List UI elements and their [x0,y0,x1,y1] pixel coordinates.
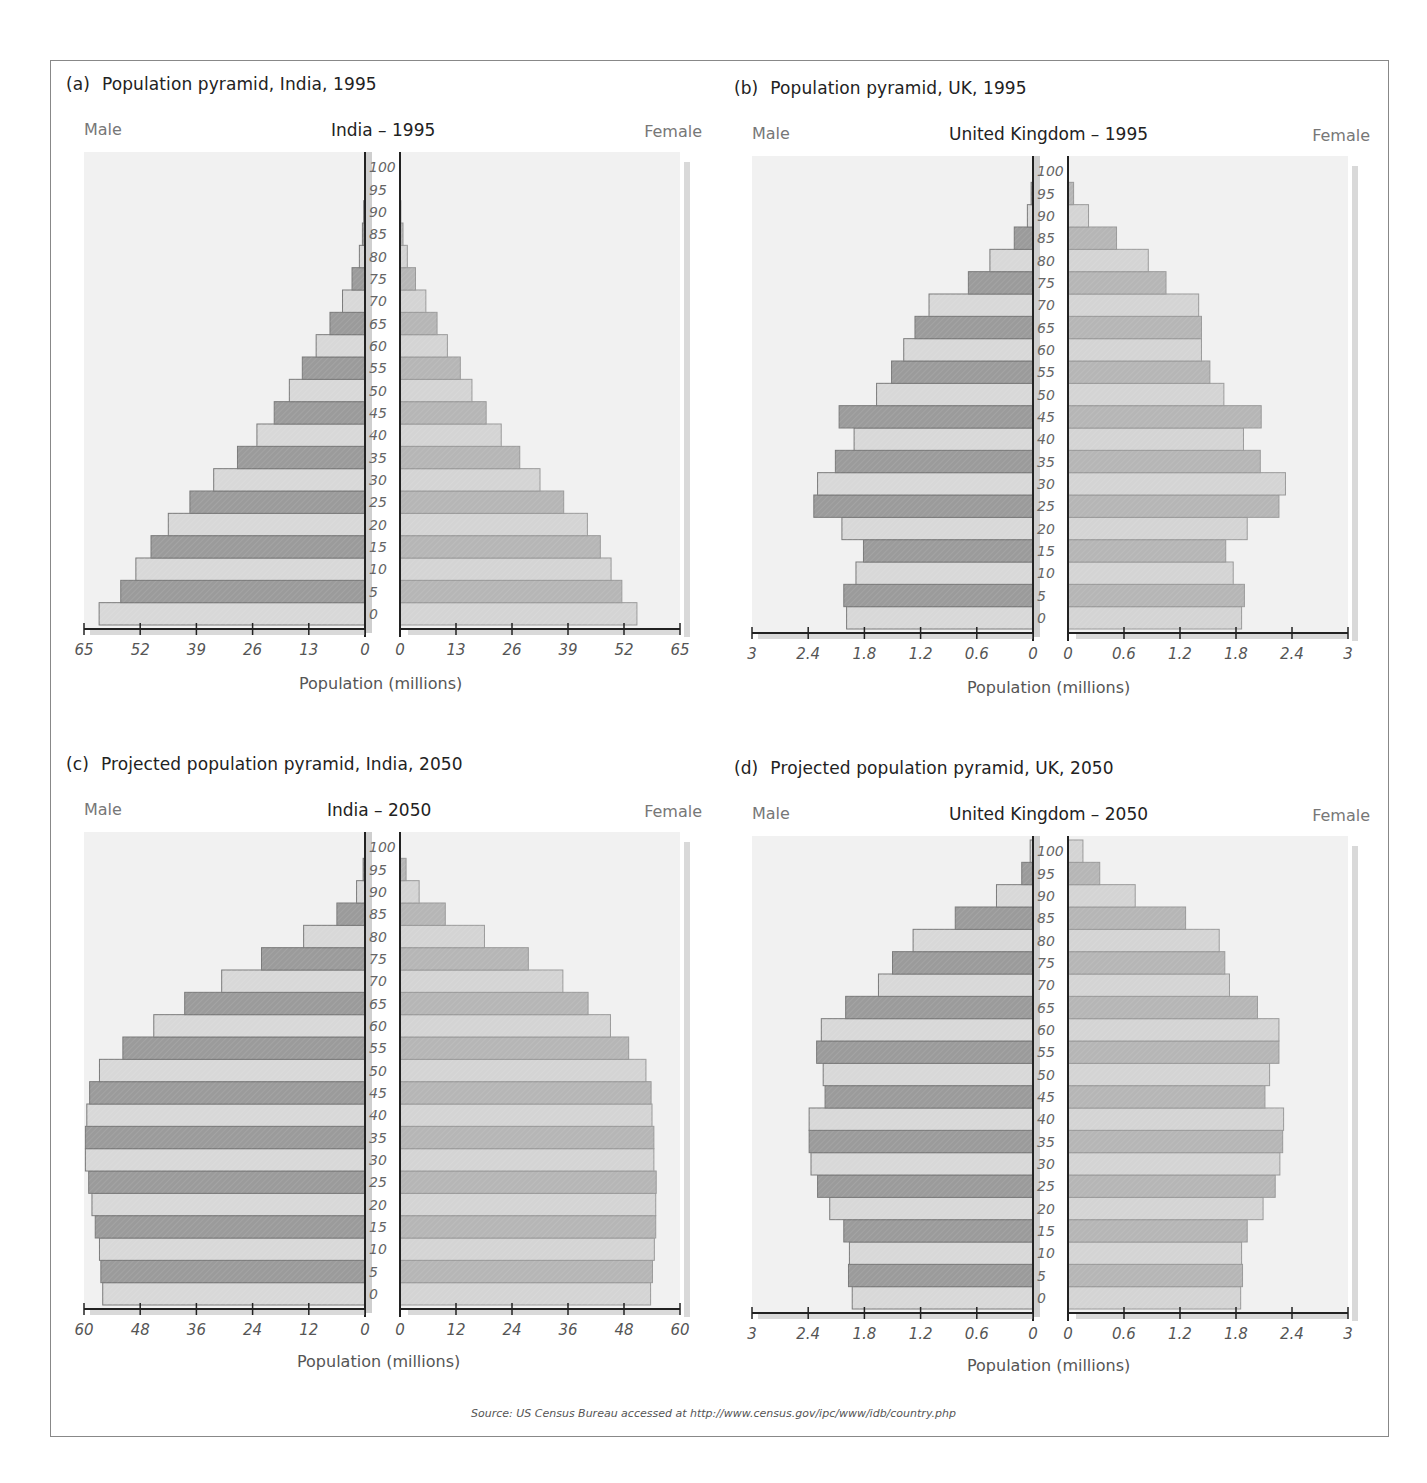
age-label: 35 [1037,1134,1055,1150]
age-label: 85 [369,906,387,922]
age-label: 15 [369,539,387,555]
age-label: 95 [369,862,387,878]
age-label: 85 [1037,230,1055,246]
age-label: 25 [1037,1178,1055,1194]
age-label: 40 [369,427,387,443]
male-tick-label: 12 [299,1321,318,1339]
age-label: 80 [1037,933,1055,949]
age-label: 25 [1037,498,1055,514]
age-label: 30 [369,472,387,488]
female-tick-label: 0.6 [1112,1325,1136,1343]
pyramid-chart: 0510152025303540455055606570758085909510… [718,68,1398,728]
male-tick-label: 3 [747,1325,757,1343]
female-tick-label: 52 [614,641,633,659]
shadow-strip [684,842,690,1317]
female-tick-label: 26 [502,641,521,659]
pyramid-chart: 0510152025303540455055606570758085909510… [718,748,1398,1408]
age-label: 50 [1037,1067,1055,1083]
male-tick-label: 39 [187,641,206,659]
female-tick-label: 1.8 [1224,1325,1248,1343]
age-label: 55 [1037,1044,1055,1060]
age-label: 5 [1037,1268,1046,1284]
male-tick-label: 13 [299,641,318,659]
age-label: 95 [1037,186,1055,202]
panel-india-1995: (a)Population pyramid, India, 1995 Male … [50,64,730,724]
shadow-strip [684,162,690,637]
age-label: 55 [1037,364,1055,380]
age-label: 0 [369,606,378,622]
age-label: 30 [369,1152,387,1168]
female-tick-label: 1.2 [1168,1325,1192,1343]
age-label: 10 [369,561,387,577]
female-tick-label: 48 [614,1321,633,1339]
age-label: 70 [369,973,387,989]
age-label: 40 [1037,431,1055,447]
age-label: 65 [369,316,387,332]
age-label: 20 [369,1197,387,1213]
age-label: 75 [1037,955,1055,971]
age-label: 35 [369,450,387,466]
age-label: 25 [369,494,387,510]
female-tick-label: 1.2 [1168,645,1192,663]
age-label: 90 [1037,888,1055,904]
age-label: 55 [369,1040,387,1056]
age-label: 0 [1037,610,1046,626]
male-tick-label: 0 [360,641,370,659]
age-label: 75 [369,271,387,287]
age-label: 100 [369,159,396,175]
age-label: 15 [1037,1223,1055,1239]
age-label: 70 [369,293,387,309]
shadow-strip [1352,166,1358,641]
female-tick-label: 3 [1343,645,1353,663]
male-tick-label: 48 [131,1321,150,1339]
age-label: 20 [1037,521,1055,537]
age-label: 80 [1037,253,1055,269]
age-label: 85 [1037,910,1055,926]
age-label: 10 [1037,565,1055,581]
x-axis-label: Population (millions) [967,678,1130,697]
female-tick-label: 36 [558,1321,577,1339]
age-label: 50 [369,383,387,399]
age-label: 15 [369,1219,387,1235]
age-label: 70 [1037,297,1055,313]
female-tick-label: 2.4 [1280,645,1304,663]
age-label: 100 [369,839,396,855]
age-label: 5 [1037,588,1046,604]
age-label: 50 [369,1063,387,1079]
female-tick-label: 3 [1343,1325,1353,1343]
male-tick-label: 0.6 [965,645,989,663]
age-label: 15 [1037,543,1055,559]
age-label: 0 [1037,1290,1046,1306]
male-tick-label: 36 [187,1321,206,1339]
x-axis-label: Population (millions) [297,1352,460,1371]
age-label: 95 [369,182,387,198]
male-tick-label: 0 [1028,1325,1038,1343]
female-tick-label: 39 [558,641,577,659]
age-label: 35 [369,1130,387,1146]
age-label: 70 [1037,977,1055,993]
age-label: 30 [1037,1156,1055,1172]
age-label: 20 [369,517,387,533]
age-label: 5 [369,1264,378,1280]
age-label: 60 [1037,342,1055,358]
male-tick-label: 2.4 [796,645,820,663]
age-label: 35 [1037,454,1055,470]
age-label: 90 [1037,208,1055,224]
pyramid-chart: 0510152025303540455055606570758085909510… [50,744,730,1404]
age-label: 45 [369,1085,387,1101]
age-label: 95 [1037,866,1055,882]
age-label: 65 [369,996,387,1012]
female-tick-label: 60 [670,1321,689,1339]
male-tick-label: 3 [747,645,757,663]
age-label: 85 [369,226,387,242]
age-label: 65 [1037,320,1055,336]
age-label: 30 [1037,476,1055,492]
age-label: 90 [369,884,387,900]
age-label: 100 [1037,163,1064,179]
female-tick-label: 12 [446,1321,465,1339]
female-tick-label: 0 [1063,1325,1073,1343]
male-tick-label: 1.8 [852,1325,876,1343]
age-label: 100 [1037,843,1064,859]
age-label: 75 [1037,275,1055,291]
age-label: 50 [1037,387,1055,403]
